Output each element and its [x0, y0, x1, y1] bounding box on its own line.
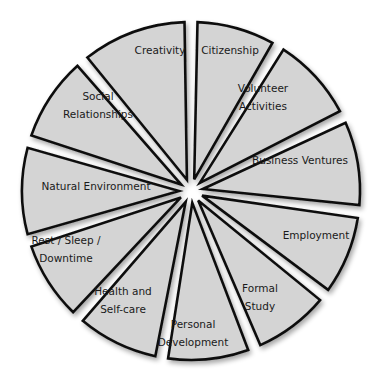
- segment-label: Business Ventures: [252, 154, 348, 166]
- segment-label: Employment: [283, 229, 350, 241]
- segment-label: Citizenship: [201, 44, 259, 56]
- life-areas-wheel: CitizenshipVolunteerActivitiesBusiness V…: [0, 0, 382, 382]
- segment-label: Natural Environment: [41, 180, 150, 192]
- segment-label: Creativity: [135, 44, 186, 56]
